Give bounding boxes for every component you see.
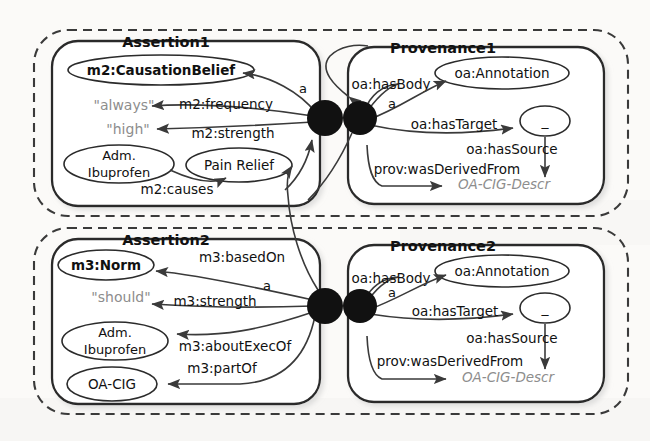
provenance1-edge-wasderivedfrom-label: prov:wasDerivedFrom [374, 161, 521, 177]
provenance2-descr-node: OA-CIG-Descr [462, 369, 556, 385]
provenance1-blank-node-label: _ [541, 113, 550, 129]
assertion1-literal-high: "high" [106, 121, 149, 137]
provenance1-descr-node: OA-CIG-Descr [458, 176, 552, 192]
assertion1-node-adm-label1: Adm. [102, 148, 136, 163]
provenance1-legend: Provenance1 [390, 40, 496, 56]
assertion2-node-oacig-label: OA-CIG [88, 376, 136, 392]
provenance1-edge-hassource-label: oa:hasSource [466, 141, 557, 157]
assertion2-node-adm-label1: Adm. [98, 325, 132, 340]
assertion1-edge-frequency-label: m2:frequency [179, 96, 273, 112]
provenance2-blank-node-label: _ [541, 300, 550, 316]
assertion2-edge-strength-label: m3:strength [173, 293, 256, 309]
provenance1-annotation-label: oa:Annotation [454, 65, 549, 81]
provenance2-graph-node[interactable] [343, 289, 377, 323]
assertion2-edge-partof-label: m3:partOf [187, 360, 258, 376]
provenance2-edge-wasderivedfrom-label: prov:wasDerivedFrom [377, 353, 524, 369]
provenance2-edge-hastarget-label: oa:hasTarget [412, 303, 499, 319]
assertion1-edge-a-label: a [299, 81, 307, 96]
provenance2-edge-hassource-label: oa:hasSource [466, 330, 557, 346]
assertion1-class-node-label: m2:CausationBelief [87, 62, 235, 78]
assertion1-legend: Assertion1 [122, 34, 210, 50]
assertion2-literal-should: "should" [91, 289, 150, 305]
assertion1-literal-always: "always" [94, 97, 155, 113]
provenance1-edge-hastarget-label: oa:hasTarget [411, 116, 498, 132]
assertion2-node-adm-label2: Ibuprofen [84, 342, 146, 357]
provenance1-edge-a-label: a [388, 96, 396, 111]
assertion2-edge-basedon-label: m3:basedOn [199, 249, 285, 265]
provenance2-annotation-label: oa:Annotation [454, 263, 549, 279]
provenance1-edge-hasbody-label: oa:hasBody [351, 76, 430, 92]
assertion1-node-adm-label2: Ibuprofen [88, 165, 150, 180]
diagram-canvas: Assertion1 Provenance1 Assertion2 Proven… [0, 0, 650, 441]
assertion1-edge-causes-label: m2:causes [141, 181, 214, 197]
assertion1-graph-node[interactable] [307, 100, 343, 136]
assertion2-edge-a-label: a [263, 278, 271, 293]
assertion2-edge-aboutexecof-label: m3:aboutExecOf [179, 338, 293, 354]
assertion2-graph-node[interactable] [307, 288, 343, 324]
assertion1-edge-strength-label: m2:strength [191, 125, 274, 141]
provenance2-edge-hasbody-label: oa:hasBody [351, 270, 430, 286]
assertion1-node-pain-label: Pain Relief [204, 157, 275, 173]
provenance1-graph-node[interactable] [343, 101, 377, 135]
provenance2-legend: Provenance2 [390, 238, 496, 254]
provenance2-edge-a-label: a [388, 285, 396, 300]
assertion2-class-node-label: m3:Norm [71, 257, 141, 273]
assertion2-legend: Assertion2 [122, 232, 210, 248]
